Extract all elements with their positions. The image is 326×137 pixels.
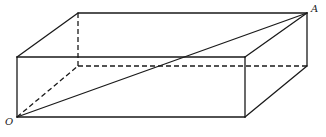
bottom-right-receding-edge: [245, 66, 307, 117]
box-diagram: O A: [0, 0, 326, 137]
hidden-bottom-diagonal: [17, 66, 78, 117]
top-right-receding-edge: [245, 13, 307, 57]
top-left-receding-edge: [17, 13, 78, 57]
label-O: O: [5, 116, 13, 127]
label-A: A: [310, 3, 318, 14]
